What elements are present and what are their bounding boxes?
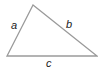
triangle-diagram: a b c [0,0,98,74]
triangle-shape [7,5,97,56]
side-c-label: c [46,57,52,69]
triangle-figure: a b c [0,0,98,74]
side-b-label: b [66,18,72,30]
side-a-label: a [11,19,17,31]
